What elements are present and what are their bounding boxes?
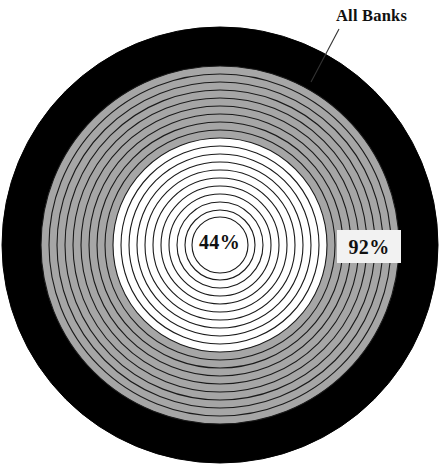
figure-root: All Banks 92% 44% <box>0 0 439 469</box>
annotation-all-banks: All Banks <box>336 8 407 25</box>
annotation-center-value: 44% <box>0 232 439 252</box>
